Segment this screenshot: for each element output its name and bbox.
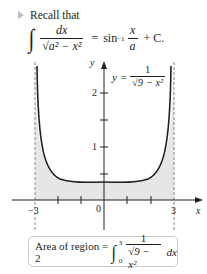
x-tick-3: 3: [171, 205, 176, 216]
y-tick-1: 1: [92, 141, 97, 152]
differential: dx: [167, 246, 177, 258]
y-axis-arrow-icon: [101, 61, 107, 69]
function-graph: [0, 0, 207, 274]
y-axis-label: y: [90, 57, 94, 68]
function-label: y = 1 √9 − x²: [112, 64, 168, 90]
integral-sign: ∫: [112, 242, 116, 262]
area-integrand: 1 √9 − x²: [126, 232, 160, 272]
area-label: Area of region = 2: [35, 240, 111, 264]
x-axis-arrow-icon: [195, 197, 203, 203]
y-tick-2: 2: [92, 87, 97, 98]
integral-limits: 3 0: [119, 239, 123, 265]
x-tick-0: 0: [96, 203, 101, 214]
x-tick-neg3: −3: [28, 205, 39, 216]
area-formula-box: Area of region = 2 ∫ 3 0 1 √9 − x² dx: [28, 236, 178, 267]
x-axis-label: x: [196, 205, 200, 216]
